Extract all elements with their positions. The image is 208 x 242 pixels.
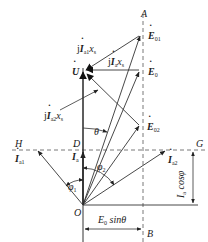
label-jIa1xs: jIa1xs: [77, 44, 96, 55]
label-point-A: A: [141, 9, 147, 19]
label-point-O: O: [74, 208, 81, 218]
phasor-diagram: A B D G H O E01 E0 E02 U Ia Ia1 Ia2 jIa1…: [0, 0, 208, 242]
label-phi1: φ1: [68, 182, 77, 193]
label-E02: E02: [147, 122, 160, 133]
label-theta: θ: [94, 127, 99, 137]
label-Ia: Ia: [72, 152, 79, 163]
label-point-B: B: [147, 229, 153, 239]
label-Ia1: Ia1: [15, 154, 25, 165]
label-jIaxs: jIaxs: [108, 57, 124, 68]
label-jIa2xs: jIa2xs: [44, 111, 63, 122]
label-E01: E01: [148, 31, 161, 42]
label-phi2: φ2: [97, 162, 106, 173]
pointer-jIa2xs: [60, 90, 98, 110]
label-E0: E0: [148, 67, 158, 78]
label-point-G: G: [196, 139, 203, 149]
diagram-lines: [0, 0, 208, 242]
label-Ia2: Ia2: [168, 155, 178, 166]
label-Iacosphi: Ia cosφ: [176, 171, 187, 198]
label-E0sintheta: E0 sinθ: [98, 215, 126, 226]
label-U: U: [72, 67, 79, 77]
phasor-Ia2: [83, 151, 165, 205]
